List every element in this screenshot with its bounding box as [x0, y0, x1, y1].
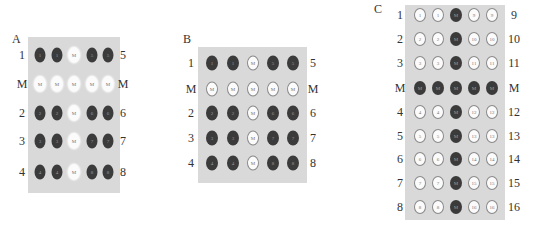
well-light: M [69, 134, 80, 149]
well-light: M [52, 77, 63, 92]
well-light: 14 [468, 152, 480, 166]
well-dark: 7 [87, 134, 98, 149]
well-dark: 8 [87, 165, 98, 180]
well-dark: 3 [35, 134, 46, 149]
well-dark: M [450, 152, 462, 166]
well-light: 1 [414, 8, 426, 22]
row-label-right: 8 [120, 166, 126, 178]
well-light: M [87, 77, 98, 92]
well-dark: M [450, 200, 462, 214]
well-light: 7 [414, 176, 426, 190]
well-dark: M [450, 56, 462, 70]
well-light: M [206, 82, 218, 97]
well-dark: M [450, 105, 462, 119]
row-label-right: 10 [508, 33, 520, 45]
well-dark: 6 [267, 106, 279, 121]
row-label-right: M [509, 82, 520, 94]
well-light: 7 [432, 176, 444, 190]
row-label-left: 4 [188, 157, 194, 169]
row-label-left: 6 [397, 153, 403, 165]
well-light: 14 [486, 152, 498, 166]
well-dark: 5 [287, 56, 299, 71]
row-label-left: M [17, 78, 28, 90]
well-dark: 4 [35, 165, 46, 180]
well-light: M [247, 106, 259, 121]
well-dark: 2 [227, 106, 239, 121]
row-label-right: 7 [310, 132, 316, 144]
well-light: 4 [432, 105, 444, 119]
well-light: 10 [486, 32, 498, 46]
well-light: 3 [432, 56, 444, 70]
well-light: 13 [486, 129, 498, 143]
well-light: M [247, 82, 259, 97]
row-label-right: 12 [508, 106, 520, 118]
well-light: M [69, 165, 80, 180]
row-label-left: 4 [397, 106, 403, 118]
well-light: 16 [468, 200, 480, 214]
well-dark: M [450, 8, 462, 22]
well-dark: 8 [103, 165, 114, 180]
row-label-left: M [395, 82, 406, 94]
panel-letter: B [183, 33, 191, 45]
well-dark: M [450, 129, 462, 143]
well-dark: M [414, 81, 426, 95]
well-light: M [247, 56, 259, 71]
well-light: 11 [468, 56, 480, 70]
row-label-right: 9 [511, 9, 517, 21]
row-label-right: 6 [310, 107, 316, 119]
well-dark: 2 [35, 106, 46, 121]
well-light: 9 [468, 8, 480, 22]
row-label-left: 5 [397, 130, 403, 142]
well-light: 3 [414, 56, 426, 70]
row-label-right: 13 [508, 130, 520, 142]
well-dark: 4 [206, 156, 218, 171]
row-label-right: 15 [508, 177, 520, 189]
row-label-left: 7 [397, 177, 403, 189]
well-dark: 2 [206, 106, 218, 121]
well-dark: M [432, 81, 444, 95]
well-light: 4 [414, 105, 426, 119]
well-dark: M [450, 32, 462, 46]
row-label-left: 1 [397, 9, 403, 21]
row-label-left: 1 [188, 57, 194, 69]
well-light: M [287, 82, 299, 97]
well-dark: 4 [227, 156, 239, 171]
well-light: M [247, 156, 259, 171]
well-light: 5 [414, 129, 426, 143]
well-dark: 7 [267, 131, 279, 146]
row-label-left: 3 [19, 135, 25, 147]
well-light: 10 [468, 32, 480, 46]
well-light: 8 [432, 200, 444, 214]
well-dark: 3 [227, 131, 239, 146]
well-dark: 8 [287, 156, 299, 171]
well-dark: 3 [206, 131, 218, 146]
well-light: M [69, 77, 80, 92]
well-light: 8 [414, 200, 426, 214]
row-label-right: 7 [120, 135, 126, 147]
well-dark: 4 [52, 165, 63, 180]
well-dark: 5 [103, 48, 114, 63]
row-label-right: 5 [120, 49, 126, 61]
well-light: 5 [432, 129, 444, 143]
well-light: 6 [432, 152, 444, 166]
well-light: M [227, 82, 239, 97]
row-label-left: 8 [397, 201, 403, 213]
well-dark: M [468, 81, 480, 95]
well-dark: M [450, 81, 462, 95]
row-label-left: 3 [397, 57, 403, 69]
well-light: 12 [486, 105, 498, 119]
well-light: M [69, 106, 80, 121]
well-dark: 2 [52, 106, 63, 121]
row-label-right: 8 [310, 157, 316, 169]
row-label-left: 2 [397, 33, 403, 45]
well-light: 6 [414, 152, 426, 166]
row-label-right: 5 [310, 57, 316, 69]
well-light: M [247, 131, 259, 146]
row-label-right: M [118, 78, 129, 90]
well-light: 2 [432, 32, 444, 46]
well-dark: 6 [87, 106, 98, 121]
row-label-right: 16 [508, 201, 520, 213]
row-label-left: M [186, 83, 197, 95]
row-label-left: 1 [19, 49, 25, 61]
well-light: M [103, 77, 114, 92]
